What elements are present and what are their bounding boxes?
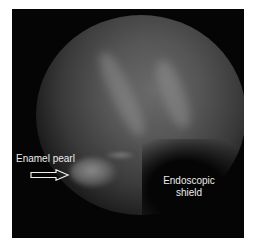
endoscopic-image: Enamel pearl Endoscopic shield [12, 9, 244, 238]
right-arrow-icon [30, 169, 70, 181]
endoscopic-shield-label: Endoscopic shield [154, 175, 224, 199]
enamel-pearl-label: Enamel pearl [16, 153, 75, 165]
endoscopic-shield-label-line2: shield [154, 187, 224, 199]
endoscopic-shield-label-line1: Endoscopic [154, 175, 224, 187]
enamel-pearl-region [70, 157, 118, 187]
enamel-pearl-highlight [104, 150, 138, 160]
